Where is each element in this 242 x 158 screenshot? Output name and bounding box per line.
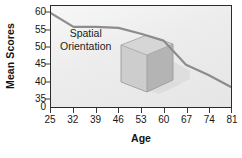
spatial-orientation-chart: Mean Scores 0354045505560 Spatial <box>0 0 242 158</box>
x-axis-tick-label: 81 <box>226 114 237 125</box>
y-axis-tick-mark <box>45 12 50 13</box>
y-axis-title: Mean Scores <box>0 0 20 112</box>
y-axis-tick-mark <box>45 81 50 82</box>
x-axis-tick-label: 32 <box>67 114 78 125</box>
y-axis-tick-labels: 0354045505560 <box>18 0 48 112</box>
x-axis-tick-label: 46 <box>113 114 124 125</box>
x-axis-tick-mark <box>164 108 165 113</box>
x-axis-title: Age <box>50 132 232 144</box>
x-axis-tick-mark <box>141 108 142 113</box>
x-axis-tick-mark <box>231 108 232 113</box>
data-line-layer <box>51 6 231 108</box>
x-axis-tick-mark <box>50 108 51 113</box>
y-axis-tick-mark <box>45 99 50 100</box>
y-axis-tick-mark <box>45 46 50 47</box>
x-axis-tick-mark <box>73 108 74 113</box>
plot-area: Spatial Orientation <box>50 5 232 108</box>
x-axis-tick-label: 25 <box>44 114 55 125</box>
y-axis-title-text: Mean Scores <box>4 23 16 89</box>
x-axis-tick-labels: 253239465360677481 <box>50 114 232 128</box>
series-line-spatial-orientation <box>51 13 231 87</box>
x-axis-tick-label: 60 <box>158 114 169 125</box>
x-axis-tick-label: 74 <box>204 114 215 125</box>
x-axis-tick-label: 39 <box>90 114 101 125</box>
x-axis-tick-label: 67 <box>181 114 192 125</box>
x-axis-tick-mark <box>96 108 97 113</box>
x-axis-tick-mark <box>209 108 210 113</box>
y-axis-tick-mark <box>45 64 50 65</box>
x-axis-tick-mark <box>118 108 119 113</box>
y-axis-tick-mark <box>45 29 50 30</box>
x-axis-tick-label: 53 <box>135 114 146 125</box>
x-axis-tick-mark <box>187 108 188 113</box>
